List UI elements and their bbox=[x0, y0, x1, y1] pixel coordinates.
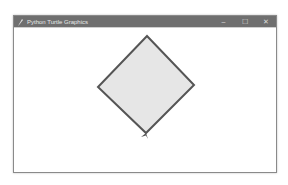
drawing-layer bbox=[0, 0, 288, 185]
turtle-arrow-icon bbox=[141, 133, 148, 139]
diamond-shape bbox=[98, 36, 194, 133]
